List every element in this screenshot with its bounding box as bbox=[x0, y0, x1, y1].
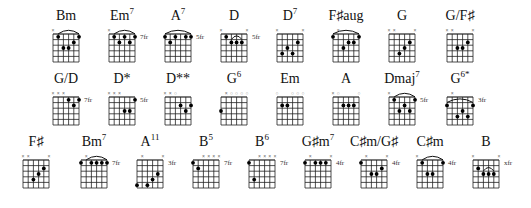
finger-dot bbox=[441, 161, 445, 165]
chord-name: G6 bbox=[204, 71, 264, 87]
muted-string-marker: × bbox=[220, 27, 223, 33]
chord-name: Em bbox=[260, 71, 320, 87]
barre-arc bbox=[114, 30, 135, 34]
fretboard-grid: ×××5fr bbox=[92, 87, 152, 133]
barre-arc bbox=[165, 30, 191, 34]
finger-dot bbox=[37, 172, 41, 176]
finger-dot bbox=[189, 35, 193, 39]
muted-string-marker: × bbox=[451, 27, 454, 33]
muted-string-marker: × bbox=[393, 27, 396, 33]
muted-string-marker: × bbox=[141, 153, 144, 159]
finger-dot bbox=[72, 104, 76, 108]
fretboard-grid: ××xfr bbox=[456, 150, 516, 196]
chord-diagram: C♯m×4fr bbox=[400, 134, 460, 196]
finger-dot bbox=[426, 172, 430, 176]
open-string-marker: ○ bbox=[357, 90, 360, 96]
finger-dot bbox=[42, 167, 46, 171]
chord-name: B bbox=[456, 134, 516, 150]
fretboard-grid: ×7fr bbox=[64, 150, 124, 196]
finger-dot bbox=[461, 46, 465, 50]
finger-dot bbox=[247, 161, 251, 165]
muted-string-marker: × bbox=[27, 153, 30, 159]
chord-name: Bm bbox=[36, 8, 96, 24]
fretboard-grid: ×○○ bbox=[316, 87, 376, 133]
muted-string-marker: × bbox=[246, 27, 249, 33]
finger-dot bbox=[352, 104, 356, 108]
muted-string-marker: × bbox=[386, 153, 389, 159]
chord-name: Em7 bbox=[92, 8, 152, 24]
finger-dot bbox=[476, 167, 480, 171]
open-string-marker: ○ bbox=[337, 90, 340, 96]
fretboard-grid: 5fr bbox=[148, 24, 208, 70]
finger-dot bbox=[408, 41, 412, 45]
muted-string-marker: × bbox=[332, 90, 335, 96]
chord-name: A7 bbox=[148, 8, 208, 24]
fretboard-grid: ××× bbox=[430, 24, 490, 70]
finger-dot bbox=[184, 109, 188, 113]
finger-dot bbox=[151, 178, 155, 182]
finger-dot bbox=[324, 161, 328, 165]
muted-string-marker: × bbox=[48, 153, 51, 159]
chord-diagram: G/D×××7fr bbox=[36, 71, 96, 133]
finger-dot bbox=[123, 109, 127, 113]
finger-dot bbox=[392, 98, 396, 102]
chord-name: D* bbox=[92, 71, 152, 87]
muted-string-marker: × bbox=[62, 90, 65, 96]
muted-string-marker: × bbox=[274, 153, 277, 159]
finger-dot bbox=[219, 109, 223, 113]
chord-name: Bm7 bbox=[64, 134, 124, 150]
finger-dot bbox=[352, 41, 356, 45]
fretboard-grid: ×5fr bbox=[372, 87, 432, 133]
muted-string-marker: × bbox=[388, 27, 391, 33]
muted-string-marker: × bbox=[118, 90, 121, 96]
muted-string-marker: × bbox=[85, 153, 88, 159]
finger-dot bbox=[112, 35, 116, 39]
fret-position-label: 3fr bbox=[478, 96, 487, 104]
chord-diagram: G××× bbox=[372, 8, 432, 70]
chord-name: G6* bbox=[430, 71, 490, 87]
finger-dot bbox=[357, 35, 361, 39]
finger-dot bbox=[32, 178, 36, 182]
chord-diagram: B5××××7fr bbox=[176, 134, 236, 196]
finger-dot bbox=[403, 104, 407, 108]
muted-string-marker: × bbox=[365, 153, 368, 159]
muted-string-marker: × bbox=[212, 153, 215, 159]
fretboard-grid: ××○ bbox=[148, 87, 208, 133]
open-string-marker: ○ bbox=[174, 90, 177, 96]
finger-dot bbox=[319, 161, 323, 165]
finger-dot bbox=[235, 41, 239, 45]
finger-dot bbox=[380, 167, 384, 171]
finger-dot bbox=[286, 104, 290, 108]
fret-position-label: 5fr bbox=[420, 96, 429, 104]
muted-string-marker: × bbox=[388, 90, 391, 96]
finger-dot bbox=[133, 98, 137, 102]
fretboard-grid: ×○○○○ bbox=[204, 87, 264, 133]
finger-dot bbox=[156, 172, 160, 176]
finger-dot bbox=[184, 35, 188, 39]
open-string-marker: ○ bbox=[240, 90, 243, 96]
finger-dot bbox=[466, 115, 470, 119]
chord-diagram: A75fr bbox=[148, 8, 208, 70]
chord-diagram: C♯m/G♯××4fr bbox=[344, 134, 404, 196]
chord-diagram: Em7×7fr bbox=[92, 8, 152, 70]
finger-dot bbox=[77, 98, 81, 102]
open-string-marker: ○ bbox=[291, 90, 294, 96]
barre-arc bbox=[394, 93, 415, 97]
finger-dot bbox=[408, 109, 412, 113]
open-string-marker: ○ bbox=[230, 90, 233, 96]
finger-dot bbox=[286, 46, 290, 50]
finger-dot bbox=[128, 109, 132, 113]
muted-string-marker: × bbox=[108, 90, 111, 96]
finger-dot bbox=[135, 183, 139, 187]
fretboard-grid: ×4fr bbox=[400, 150, 460, 196]
finger-dot bbox=[347, 104, 351, 108]
chord-name: Dmaj7 bbox=[372, 71, 432, 87]
fretboard-grid: × bbox=[316, 24, 376, 70]
finger-dot bbox=[296, 41, 300, 45]
open-string-marker: ○ bbox=[301, 90, 304, 96]
chord-diagram: Dmaj7×5fr bbox=[372, 71, 432, 133]
chord-name: G/D bbox=[36, 71, 96, 87]
finger-dot bbox=[445, 104, 449, 108]
muted-string-marker: × bbox=[268, 153, 271, 159]
muted-string-marker: × bbox=[52, 27, 55, 33]
